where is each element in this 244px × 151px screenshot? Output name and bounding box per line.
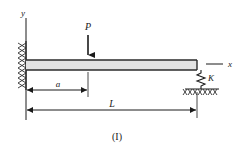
spring-constant-label: K	[207, 73, 215, 83]
x-axis-label: x	[227, 59, 232, 69]
beam-diagram-svg: y	[0, 0, 244, 151]
beam	[26, 60, 197, 70]
dimension-a-label: a	[56, 79, 61, 89]
dimension-L-label: L	[108, 98, 115, 109]
figure-caption: (I)	[112, 131, 122, 143]
point-load-label: P	[84, 21, 91, 32]
y-axis-label: y	[20, 8, 25, 18]
figure-container: y	[0, 0, 244, 151]
